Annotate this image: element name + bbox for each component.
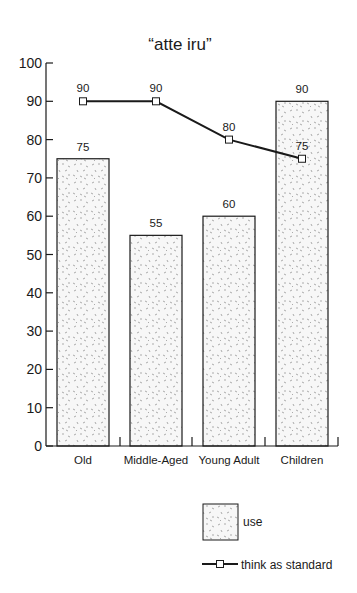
line-marker: [299, 155, 306, 162]
line-marker: [226, 136, 233, 143]
legend-label-use: use: [243, 515, 263, 529]
y-tick-label: 100: [19, 55, 43, 71]
bar-line-chart: “atte iru” 0102030405060708090100 755560…: [0, 0, 357, 593]
x-category-label: Children: [281, 454, 324, 466]
bar: [203, 216, 255, 446]
line-value-label: 80: [223, 121, 236, 133]
y-tick-label: 90: [26, 93, 42, 109]
legend-marker-icon: [217, 561, 224, 568]
x-category-label: Old: [74, 454, 92, 466]
line-marker: [153, 98, 160, 105]
bar-value-label: 55: [150, 217, 163, 229]
legend-label-think-as-standard: think as standard: [241, 558, 332, 572]
y-tick-label: 40: [26, 285, 42, 301]
bar-series-use: 75556090: [57, 83, 328, 446]
y-axis: 0102030405060708090100: [19, 55, 53, 454]
y-tick-label: 80: [26, 132, 42, 148]
legend: use think as standard: [202, 504, 332, 572]
bar-value-label: 60: [223, 198, 236, 210]
line-value-label: 75: [296, 140, 309, 152]
y-tick-label: 70: [26, 170, 42, 186]
legend-swatch-use: [203, 504, 238, 540]
line-marker: [80, 98, 87, 105]
bar: [130, 235, 182, 446]
line-value-label: 90: [77, 82, 90, 94]
x-category-label: Young Adult: [199, 454, 261, 466]
y-tick-label: 60: [26, 208, 42, 224]
y-tick-label: 30: [26, 323, 42, 339]
bar: [57, 159, 109, 446]
y-tick-label: 50: [26, 247, 42, 263]
y-tick-label: 0: [34, 438, 42, 454]
chart-title: “atte iru”: [148, 35, 212, 54]
bar-value-label: 90: [296, 83, 309, 95]
line-series-think-as-standard: 90908075: [77, 82, 309, 162]
x-category-label: Middle-Aged: [124, 454, 189, 466]
y-tick-label: 10: [26, 400, 42, 416]
y-tick-label: 20: [26, 361, 42, 377]
bar-value-label: 75: [77, 141, 90, 153]
line-value-label: 90: [150, 82, 163, 94]
